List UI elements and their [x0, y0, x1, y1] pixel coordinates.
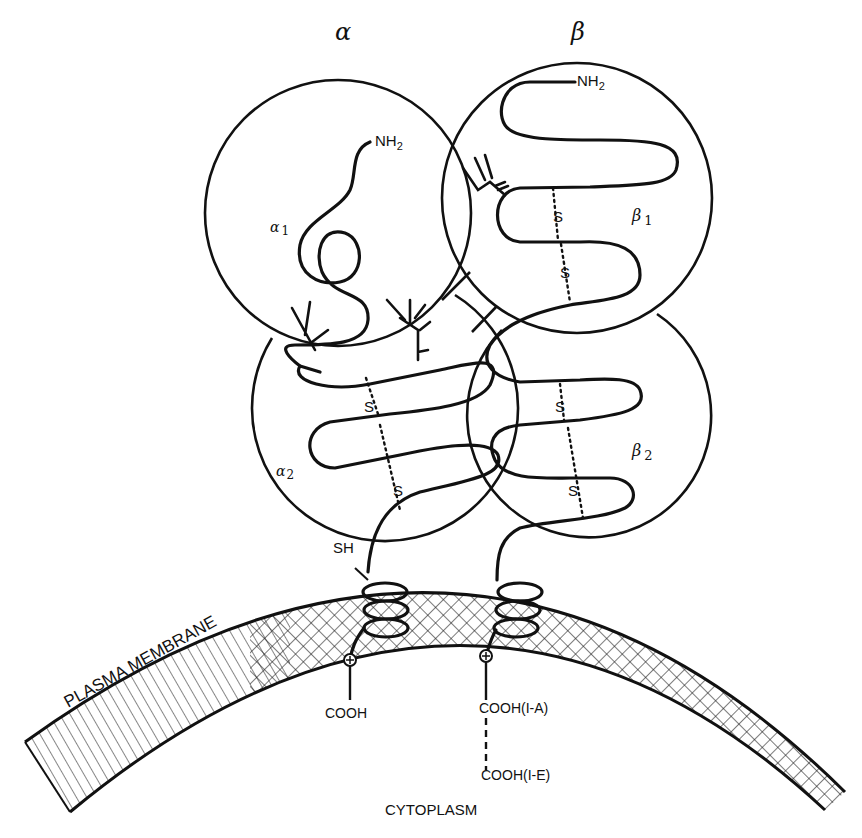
- mhc-class-ii-diagram: PLASMA MEMBRANE S S: [0, 0, 862, 838]
- disulfide-label: S: [568, 482, 578, 499]
- disulfide-label: S: [555, 398, 565, 415]
- cooh-ie-label: COOH(I-E): [481, 767, 550, 783]
- beta-subunit-label: β: [570, 18, 585, 46]
- beta1-domain: [442, 63, 712, 333]
- alpha1-label: α1: [270, 219, 289, 238]
- svg-text:α1: α1: [270, 219, 289, 238]
- beta2-label: β2: [631, 441, 653, 463]
- sh-label: SH: [333, 539, 354, 556]
- beta1-label: β1: [631, 206, 653, 228]
- alpha2-label: α2: [276, 463, 294, 482]
- svg-text:α2: α2: [276, 463, 294, 482]
- disulfide-label: S: [553, 208, 563, 225]
- beta-nh2-label: NH2: [577, 72, 605, 92]
- alpha2-domain: [252, 295, 518, 541]
- svg-text:NH2: NH2: [375, 132, 403, 152]
- alpha1-domain: [205, 80, 471, 346]
- alpha-nh2-label: NH2: [375, 132, 403, 152]
- svg-text:β1: β1: [631, 206, 653, 228]
- disulfide-label: S: [560, 264, 570, 281]
- cooh-ia-label: COOH(I-A): [479, 700, 548, 716]
- alpha-subunit-label: α: [335, 18, 351, 46]
- cytoplasm-label: CYTOPLASM: [385, 801, 477, 818]
- cooh-alpha-label: COOH: [325, 705, 367, 721]
- svg-text:β2: β2: [631, 441, 653, 463]
- glycan-icon: [387, 300, 430, 360]
- svg-text:NH2: NH2: [577, 72, 605, 92]
- disulfide-label: S: [364, 398, 374, 415]
- disulfide-label: S: [393, 482, 403, 499]
- plasma-membrane: PLASMA MEMBRANE: [25, 593, 845, 812]
